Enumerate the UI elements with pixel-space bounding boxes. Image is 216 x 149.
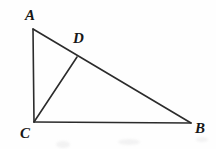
vertex-label-d: D [73,31,84,46]
vertex-label-b: B [195,121,205,136]
segment-CB [34,122,191,123]
vertex-label-c: C [20,126,30,141]
scan-artifact [196,137,208,142]
segment-CD [34,57,77,122]
geometry-figure: A D C B [0,0,216,149]
scan-artifact [118,139,140,145]
segment-AC [33,29,34,122]
segment-AB [33,29,191,123]
scan-artifact [56,141,70,148]
vertex-label-a: A [25,8,35,23]
